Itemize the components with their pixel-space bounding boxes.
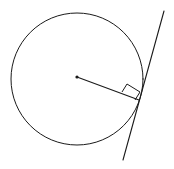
center-dot — [75, 75, 78, 78]
geometry-figure: Circle with tangent line and radius at p… — [0, 0, 174, 169]
figure-background — [0, 0, 174, 169]
geometry-canvas: Circle with tangent line and radius at p… — [0, 0, 174, 169]
